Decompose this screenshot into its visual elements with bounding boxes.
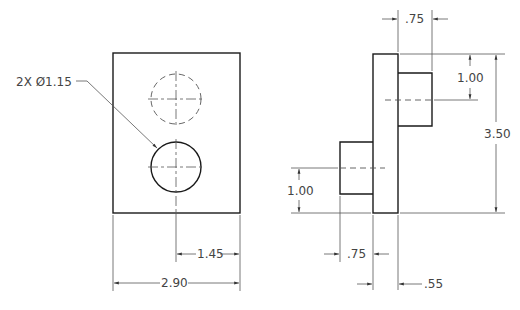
dim-text-2-90: 2.90: [161, 276, 188, 290]
dim-text-55: .55: [424, 277, 443, 291]
hole-callout-label: 2X Ø1.15: [16, 75, 72, 89]
technical-drawing: 2X Ø1.15 1.45 2.90 .75: [0, 0, 520, 310]
dim-text-bottom-75: .75: [347, 247, 366, 261]
dim-text-right-1-00: 1.00: [457, 71, 484, 85]
front-view: 2X Ø1.15 1.45 2.90: [16, 53, 240, 291]
callout-leader-arrow: [76, 81, 157, 148]
side-plate-outline: [373, 54, 398, 213]
upper-boss-outline: [398, 73, 432, 126]
front-plate-outline: [113, 53, 240, 213]
side-view: .75 1.00 3.50 1.00 .75 .55: [287, 10, 511, 291]
dim-text-top-75: .75: [405, 12, 424, 26]
dim-text-left-1-00: 1.00: [287, 184, 314, 198]
dim-text-1-45: 1.45: [197, 247, 224, 261]
dim-text-3-50: 3.50: [484, 127, 511, 141]
